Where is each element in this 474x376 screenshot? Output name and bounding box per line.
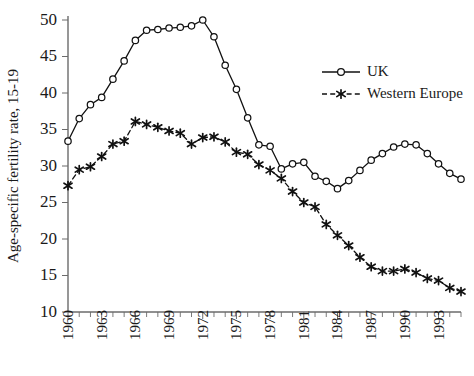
data-point: [143, 120, 151, 128]
data-point: [402, 141, 408, 147]
y-tick-label: 10: [40, 302, 57, 321]
data-point: [87, 101, 93, 107]
data-point: [132, 37, 138, 43]
data-point: [401, 265, 409, 273]
data-point: [155, 26, 161, 32]
data-point: [278, 166, 284, 172]
chart-legend: UKWestern Europe: [322, 63, 463, 101]
fertility-rate-chart: 101520253035404550 196019631966196919721…: [0, 0, 474, 376]
x-tick-label: 1963: [94, 310, 110, 340]
data-point: [447, 170, 453, 176]
data-point: [211, 34, 217, 40]
x-tick-label: 1972: [195, 310, 211, 340]
x-tick-label: 1984: [329, 310, 345, 341]
x-tick-label: 1990: [397, 310, 413, 340]
y-tick-label: 35: [40, 119, 57, 138]
data-point: [457, 288, 465, 296]
data-point: [323, 178, 329, 184]
data-point: [244, 115, 250, 121]
legend-swatch-marker: [337, 90, 345, 98]
data-point: [357, 167, 363, 173]
legend-item-uk[interactable]: UK: [322, 63, 389, 79]
x-axis: 1960196319661969197219751978198119841987…: [60, 310, 461, 341]
x-tick-label: 1969: [161, 310, 177, 340]
data-point: [110, 76, 116, 82]
y-axis-ticks: [62, 20, 68, 312]
series-uk: [65, 17, 464, 192]
data-point: [289, 188, 297, 196]
legend-label: UK: [367, 63, 389, 79]
y-tick-label: 40: [40, 83, 57, 102]
x-tick-label: 1981: [296, 310, 312, 340]
y-tick-label: 50: [40, 10, 57, 29]
data-point: [131, 117, 139, 125]
data-point: [301, 159, 307, 165]
y-tick-label: 30: [40, 156, 57, 175]
data-point: [379, 150, 385, 156]
data-point: [154, 123, 162, 131]
data-point: [256, 142, 262, 148]
data-point: [65, 138, 71, 144]
data-point: [368, 157, 374, 163]
data-point: [435, 161, 441, 167]
data-point: [188, 23, 194, 29]
data-point: [300, 199, 308, 207]
data-point: [413, 142, 419, 148]
x-tick-label: 1993: [431, 310, 447, 340]
data-point: [64, 182, 72, 190]
y-tick-label: 15: [40, 265, 57, 284]
data-point: [446, 284, 454, 292]
data-point: [267, 143, 273, 149]
legend-label: Western Europe: [367, 85, 463, 101]
chart-canvas: 101520253035404550 196019631966196919721…: [0, 0, 474, 376]
y-axis-title: Age-specific fertility rate, 15-19: [5, 69, 21, 263]
x-axis-tick-labels: 1960196319661969197219751978198119841987…: [60, 310, 447, 341]
data-point: [334, 185, 340, 191]
y-axis-tick-labels: 101520253035404550: [40, 10, 57, 321]
data-point: [390, 144, 396, 150]
data-point: [412, 269, 420, 277]
x-tick-label: 1978: [262, 310, 278, 340]
data-point: [424, 150, 430, 156]
x-tick-label: 1966: [127, 310, 143, 341]
legend-item-western-europe[interactable]: Western Europe: [322, 85, 463, 101]
data-point: [200, 17, 206, 23]
data-point: [312, 173, 318, 179]
legend-swatch-marker: [338, 69, 345, 76]
y-tick-label: 45: [40, 46, 57, 65]
y-tick-label: 20: [40, 229, 57, 248]
series-line: [68, 121, 461, 291]
data-point: [346, 177, 352, 183]
data-point: [143, 27, 149, 33]
x-tick-label: 1960: [60, 310, 76, 340]
data-point: [289, 161, 295, 167]
y-axis: 101520253035404550: [40, 10, 68, 321]
data-point: [322, 220, 330, 228]
data-point: [311, 203, 319, 211]
data-series-layer: [64, 17, 465, 296]
data-point: [98, 94, 104, 100]
data-point: [75, 166, 83, 174]
data-point: [233, 86, 239, 92]
x-tick-label: 1975: [228, 310, 244, 340]
data-point: [458, 176, 464, 182]
data-point: [177, 24, 183, 30]
series-line: [68, 20, 461, 189]
data-point: [277, 174, 285, 182]
data-point: [76, 115, 82, 121]
data-point: [166, 25, 172, 31]
data-point: [222, 62, 228, 68]
y-tick-label: 25: [40, 192, 57, 211]
data-point: [120, 137, 128, 145]
data-point: [121, 58, 127, 64]
x-tick-label: 1987: [363, 310, 379, 341]
